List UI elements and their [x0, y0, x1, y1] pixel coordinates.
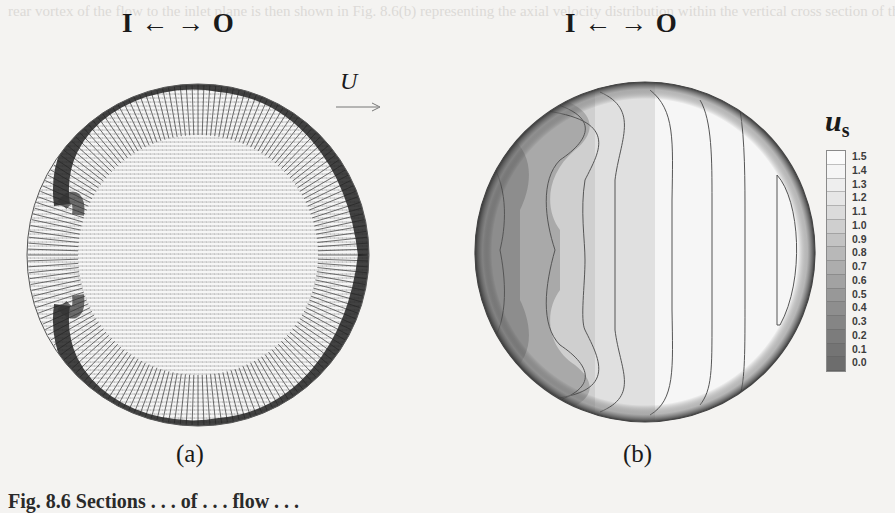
colorbar-tick-label: 1.2 [852, 191, 867, 205]
contour-panel-b [475, 80, 825, 425]
colorbar-tick-label: 0.1 [852, 343, 867, 357]
colorbar-cell [827, 192, 845, 206]
colorbar-tick-label: 1.3 [852, 178, 867, 192]
colorbar-title: us [825, 104, 849, 142]
colorbar-cell [827, 151, 845, 165]
colorbar-tick-label: 1.1 [852, 205, 867, 219]
colorbar-cell [827, 344, 845, 358]
colorbar-tick-label: 1.0 [852, 219, 867, 233]
colorbar-cell [827, 247, 845, 261]
colorbar-tick-label: 0.0 [852, 356, 867, 370]
colorbar-cell [827, 316, 845, 330]
colorbar-cell [827, 330, 845, 344]
colorbar-cell [827, 165, 845, 179]
panel-b-label: (b) [623, 440, 652, 468]
colorbar-tick-label: 0.6 [852, 274, 867, 288]
colorbar-tick-label: 0.4 [852, 301, 867, 315]
colorbar-tick-label: 0.8 [852, 246, 867, 260]
colorbar-tick-label: 0.5 [852, 288, 867, 302]
colorbar-cell [827, 179, 845, 193]
colorbar-cell [827, 206, 845, 220]
colorbar-ticks: 1.51.41.31.21.11.00.90.80.70.60.50.40.30… [852, 150, 867, 370]
colorbar-tick-label: 0.7 [852, 260, 867, 274]
colorbar-cell [827, 302, 845, 316]
colorbar-cell [827, 261, 845, 275]
colorbar-cell [827, 275, 845, 289]
colorbar-tick-label: 0.3 [852, 315, 867, 329]
colorbar-cell [827, 357, 845, 371]
colorbar-tick-label: 0.2 [852, 329, 867, 343]
colorbar-cell [827, 234, 845, 248]
colorbar-cell [827, 289, 845, 303]
vector-field-panel-a [27, 82, 369, 429]
figure-caption: Fig. 8.6 Sections . . . of . . . flow . … [8, 490, 299, 513]
colorbar-tick-label: 0.9 [852, 233, 867, 247]
panel-a-label: (a) [176, 440, 204, 468]
colorbar-cell [827, 220, 845, 234]
colorbar [826, 150, 846, 372]
colorbar-tick-label: 1.4 [852, 164, 867, 178]
colorbar-tick-label: 1.5 [852, 150, 867, 164]
